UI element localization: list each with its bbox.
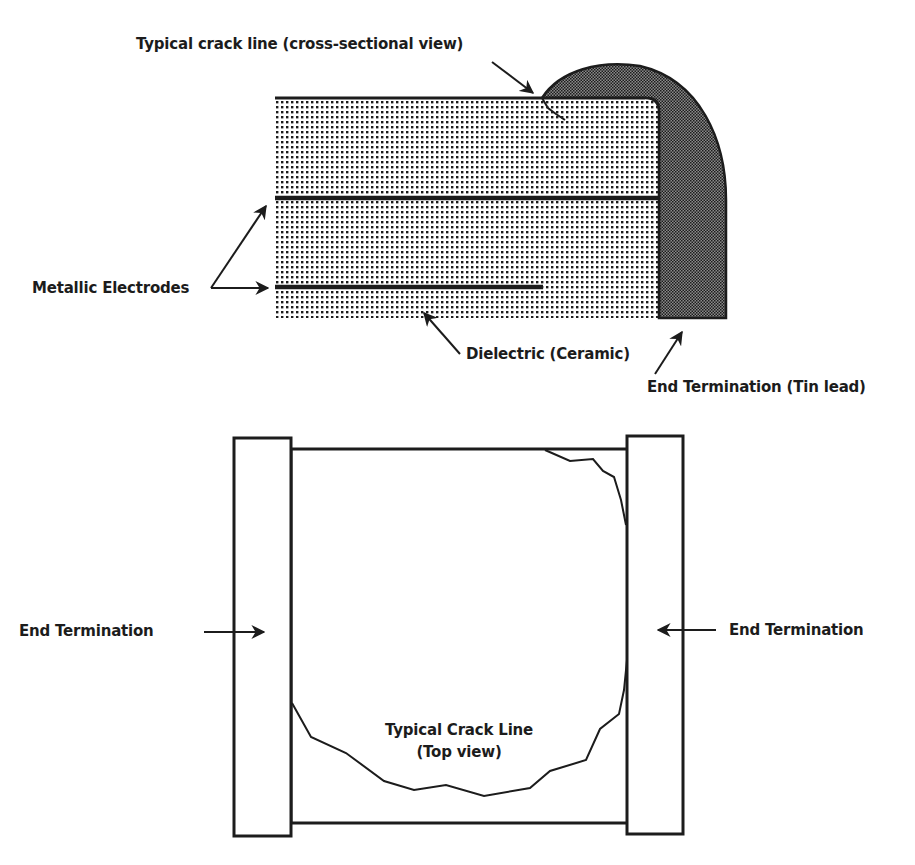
end-termination-left-block xyxy=(234,438,291,836)
cross-section-view xyxy=(211,62,726,374)
end-termination-arrow xyxy=(655,332,682,374)
end-termination-tin-lead-label: End Termination (Tin lead) xyxy=(647,378,866,396)
electrodes-arrow-upper xyxy=(211,206,266,288)
end-termination-right-label: End Termination xyxy=(729,621,864,639)
crack-line-top-view-line2: (Top view) xyxy=(385,741,533,763)
crack-line-top-view-line1: Typical Crack Line xyxy=(385,719,533,741)
end-termination-left-label: End Termination xyxy=(19,622,154,640)
dielectric-label: Dielectric (Ceramic) xyxy=(466,345,630,363)
chip-body xyxy=(291,449,628,823)
metallic-electrodes-label: Metallic Electrodes xyxy=(32,279,189,297)
top-view xyxy=(204,436,716,836)
dielectric-arrow xyxy=(424,313,460,354)
crack-line-top-view-label: Typical Crack Line (Top view) xyxy=(385,719,533,763)
crack-line-arrow xyxy=(492,62,533,93)
crack-line-cross-section-label: Typical crack line (cross-sectional view… xyxy=(136,35,463,53)
end-termination-right-block xyxy=(627,436,683,834)
